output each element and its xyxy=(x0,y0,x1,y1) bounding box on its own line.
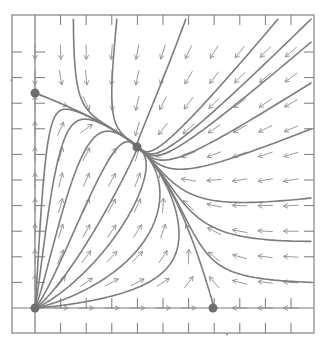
arrowhead xyxy=(232,228,237,230)
trajectory xyxy=(35,109,137,307)
arrowhead xyxy=(181,177,186,179)
arrowhead xyxy=(61,55,63,60)
trajectory xyxy=(36,147,180,308)
arrowhead xyxy=(63,224,64,229)
arrowhead xyxy=(258,181,263,183)
arrowhead xyxy=(258,229,263,231)
direction-arrow xyxy=(209,277,219,288)
arrowhead xyxy=(63,147,64,152)
trajectory xyxy=(36,147,138,308)
arrowhead xyxy=(164,198,166,203)
arrowhead xyxy=(258,254,263,256)
arrowhead xyxy=(284,157,289,158)
arrowhead xyxy=(156,157,161,158)
equilibrium-points xyxy=(31,89,218,313)
direction-arrow xyxy=(232,205,247,206)
direction-arrow xyxy=(284,256,299,257)
arrowhead xyxy=(140,173,141,178)
direction-arrow xyxy=(235,72,245,83)
arrowhead xyxy=(134,131,135,136)
arrowhead xyxy=(182,157,187,158)
arrowhead xyxy=(63,198,64,203)
arrowhead xyxy=(109,55,111,60)
arrowhead xyxy=(160,54,161,59)
direction-arrow xyxy=(60,45,61,60)
trajectory xyxy=(137,83,311,160)
trajectory xyxy=(73,19,137,147)
phase-portrait xyxy=(0,0,329,345)
direction-arrow xyxy=(188,249,189,264)
trajectory xyxy=(36,147,147,308)
phase-portrait-canvas xyxy=(0,0,329,345)
equilibrium-point-x-axis-point xyxy=(209,304,218,313)
arrowhead xyxy=(284,206,289,208)
direction-arrow xyxy=(258,205,273,206)
equilibrium-point-y-axis-point xyxy=(31,89,40,98)
arrowhead xyxy=(87,80,89,85)
direction-arrow xyxy=(260,47,270,58)
solution-trajectories xyxy=(11,19,312,336)
arrowhead xyxy=(258,157,263,158)
direction-arrow xyxy=(107,251,117,262)
arrowhead xyxy=(233,279,238,280)
arrowhead xyxy=(87,278,92,279)
trajectory xyxy=(137,19,311,154)
arrowhead xyxy=(62,80,64,85)
arrowhead xyxy=(134,80,135,85)
arrowhead xyxy=(284,254,289,256)
arrowhead xyxy=(207,181,212,183)
arrowhead xyxy=(232,181,237,183)
arrowhead xyxy=(62,173,63,178)
direction-arrow xyxy=(284,205,299,206)
trajectory xyxy=(137,19,186,147)
equilibrium-point-origin xyxy=(31,304,40,313)
direction-arrow xyxy=(162,198,163,213)
trajectory xyxy=(137,147,214,308)
arrowhead xyxy=(233,254,238,255)
arrowhead xyxy=(284,181,289,183)
trajectory xyxy=(112,19,138,147)
direction-arrow xyxy=(258,231,273,232)
arrowhead xyxy=(167,251,168,256)
arrowhead xyxy=(258,280,263,282)
equilibrium-point-interior-point xyxy=(133,143,142,152)
arrowhead xyxy=(207,203,212,204)
arrowhead xyxy=(134,106,135,111)
arrowhead xyxy=(165,224,166,229)
arrowhead xyxy=(207,157,212,158)
arrowhead xyxy=(134,55,136,60)
